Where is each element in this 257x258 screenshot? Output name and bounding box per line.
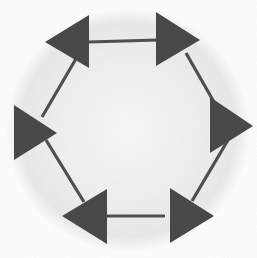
connector-top — [88, 40, 158, 42]
cyclic-arrow-figure — [0, 0, 257, 258]
diagram-canvas — [0, 0, 257, 258]
